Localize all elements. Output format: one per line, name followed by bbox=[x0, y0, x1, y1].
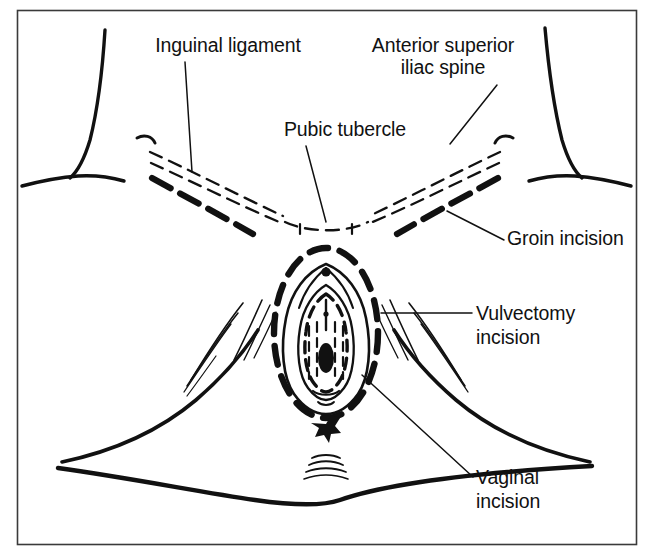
label-pubic-tubercle: Pubic tubercle bbox=[284, 118, 406, 140]
label-anterior-superior-iliac-spine-line1: Anterior superior bbox=[372, 34, 515, 56]
label-anterior-superior-iliac-spine-line2: iliac spine bbox=[401, 56, 486, 78]
urethral-meatus bbox=[323, 311, 328, 316]
figure-root: Inguinal ligament Anterior superior ilia… bbox=[0, 0, 651, 560]
label-vaginal-incision-line2: incision bbox=[476, 490, 540, 512]
label-groin-incision: Groin incision bbox=[507, 227, 624, 249]
clitoris bbox=[321, 267, 330, 276]
label-vaginal-incision-line1: Vaginal bbox=[476, 466, 539, 488]
anatomical-illustration: Inguinal ligament Anterior superior ilia… bbox=[0, 0, 651, 560]
vaginal-introitus bbox=[318, 343, 334, 373]
label-vulvectomy-incision-line2: incision bbox=[476, 326, 540, 348]
label-inguinal-ligament: Inguinal ligament bbox=[155, 34, 301, 56]
label-vulvectomy-incision-line1: Vulvectomy bbox=[476, 302, 575, 324]
